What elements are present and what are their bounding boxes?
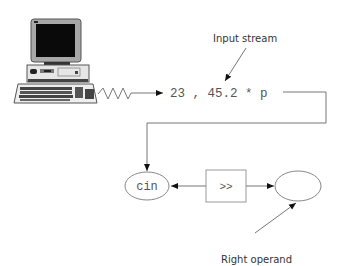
right-operand-arrow	[255, 203, 296, 233]
extraction-operator-node: >>	[206, 170, 246, 202]
stream-content: 23 , 45.2 * p	[170, 87, 268, 101]
cin-label: cin	[136, 180, 158, 194]
right-operand-node	[275, 171, 321, 201]
input-stream-arrow	[225, 48, 246, 81]
stream-to-cin-connector	[147, 92, 326, 171]
input-stream-label: Input stream	[213, 33, 277, 44]
cin-node: cin	[125, 172, 169, 200]
desktop-computer-icon	[14, 19, 97, 103]
zigzag-signal-icon	[98, 88, 131, 99]
operator-label: >>	[219, 181, 232, 193]
right-operand-label: Right operand	[221, 254, 292, 265]
stream-diagram: 23 , 45.2 * p Input stream cin >> Right …	[0, 0, 343, 266]
